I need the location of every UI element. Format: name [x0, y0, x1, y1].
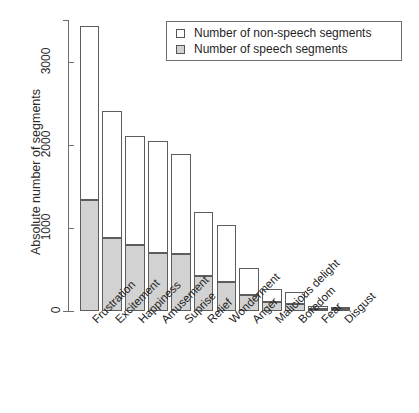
bar-segment-non-speech [171, 154, 191, 254]
legend-item-speech: Number of speech segments [176, 41, 347, 57]
legend-swatch-icon-speech [176, 45, 185, 54]
bar-segment-non-speech [125, 136, 145, 246]
y-tick-label-0: 0 [0, 303, 60, 317]
legend-label-non-speech: Number of non-speech segments [194, 26, 371, 40]
bar-segment-non-speech [217, 225, 237, 282]
legend-label-speech: Number of speech segments [194, 42, 347, 56]
y-axis-cap-bottom [63, 311, 69, 312]
chart-figure: Absolute number of segments 010002000300… [0, 0, 419, 413]
chart-legend: Number of non-speech segments Number of … [166, 21, 402, 61]
bar-segment-non-speech [148, 141, 168, 252]
legend-item-non-speech: Number of non-speech segments [176, 25, 371, 41]
y-tick-label-2000: 2000 [0, 137, 60, 151]
bar-segment-non-speech [102, 111, 122, 238]
legend-swatch-icon-non-speech [176, 29, 185, 38]
y-tick-label-3000: 3000 [0, 54, 60, 68]
bar-segment-non-speech [80, 26, 100, 201]
bar-excitement [102, 111, 122, 311]
y-axis-cap-top [63, 20, 69, 21]
bar-frustration [80, 26, 100, 311]
y-tick-label-1000: 1000 [0, 220, 60, 234]
bar-segment-speech [80, 200, 100, 311]
bar-segment-non-speech [194, 212, 214, 276]
